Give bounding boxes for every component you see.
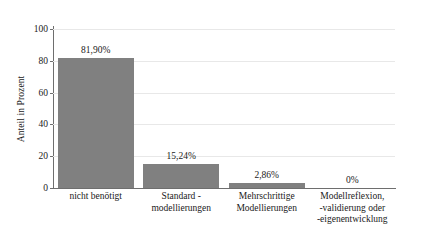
x-category-line: nicht benötigt	[53, 191, 139, 203]
bar-chart: Anteil in Prozent 020406080100 81,90%15,…	[0, 0, 430, 241]
bar-value-label: 15,24%	[129, 151, 233, 162]
y-axis-title: Anteil in Prozent	[14, 29, 28, 189]
y-tick-mark	[50, 188, 53, 189]
y-tick-label: 80	[8, 56, 48, 66]
y-tick-label: 0	[8, 183, 48, 193]
y-tick-label: 40	[8, 119, 48, 129]
x-category-label: Modellreflexion,-validierung oder-eigene…	[310, 191, 396, 226]
bar[interactable]	[143, 164, 219, 188]
bars-layer: 81,90%15,24%2,86%0%	[53, 29, 395, 188]
y-tick-label: 100	[8, 24, 48, 34]
bar-slot: 2,86%	[229, 29, 305, 188]
bar-value-label: 0%	[300, 175, 404, 186]
x-axis-categories: nicht benötigtStandard -modellierungenMe…	[53, 191, 395, 241]
bar-slot: 0%	[314, 29, 390, 188]
x-category-line: -eigenentwicklung	[310, 214, 396, 226]
x-category-line: modellierungen	[139, 203, 225, 215]
x-category-line: -validierung oder	[310, 203, 396, 215]
bar-slot: 81,90%	[58, 29, 134, 188]
x-category-label: MehrschrittigeModellierungen	[224, 191, 310, 214]
bar-slot: 15,24%	[143, 29, 219, 188]
y-tick-label: 60	[8, 88, 48, 98]
bar[interactable]	[229, 183, 305, 188]
x-category-label: Standard -modellierungen	[139, 191, 225, 214]
x-category-line: Mehrschrittige	[224, 191, 310, 203]
x-category-label: nicht benötigt	[53, 191, 139, 203]
bar-value-label: 81,90%	[44, 45, 148, 56]
x-category-line: Modellreflexion,	[310, 191, 396, 203]
bar[interactable]	[58, 58, 134, 188]
plot-area: 020406080100 81,90%15,24%2,86%0%	[53, 29, 395, 188]
y-tick-label: 20	[8, 151, 48, 161]
x-category-line: Modellierungen	[224, 203, 310, 215]
x-category-line: Standard -	[139, 191, 225, 203]
